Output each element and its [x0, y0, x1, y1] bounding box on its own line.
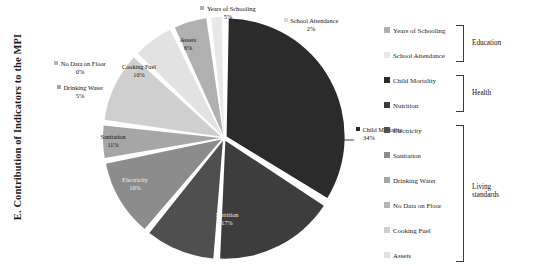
years-of-schooling-swatch-icon — [200, 6, 204, 10]
callout-drinking-water-value: 5% — [32, 92, 128, 100]
callout-no-data-on-floor: No Data on Floor 0% — [32, 60, 128, 76]
legend-swatch-icon — [384, 252, 390, 258]
legend-swatch-icon — [384, 52, 390, 58]
legend-group-label-line2: standards — [472, 191, 499, 200]
legend-item-label: Nutrition — [393, 102, 418, 109]
legend-swatch-icon — [384, 152, 390, 158]
legend-group-bracket — [456, 75, 464, 112]
callout-school-attendance-text: School Attendance — [290, 17, 338, 24]
slice-label-nutrition-text: Nutrition — [216, 211, 239, 218]
legend-group-bracket — [456, 125, 464, 262]
slice-label-electricity: Electricity 10% — [102, 176, 168, 191]
legend-item-label: Drinking Water — [393, 177, 436, 184]
legend: Years of SchoolingSchool AttendanceChild… — [384, 24, 537, 264]
legend-swatch-icon — [384, 102, 390, 108]
legend-group-bracket — [456, 25, 464, 62]
legend-group-label: Health — [472, 89, 491, 98]
callout-drinking-water-text: Drinking Water — [63, 84, 103, 91]
legend-item[interactable]: No Data on Floor — [384, 199, 441, 211]
callout-drinking-water: Drinking Water 5% — [32, 84, 128, 100]
pie-chart-figure: E. Contribution of Indicators to the MPI… — [0, 0, 537, 266]
legend-item[interactable]: School Attendance — [384, 49, 445, 61]
legend-swatch-icon — [384, 202, 390, 208]
legend-item-label: No Data on Floor — [393, 202, 441, 209]
callout-no-data-on-floor-text: No Data on Floor — [61, 60, 106, 67]
legend-item[interactable]: Nutrition — [384, 99, 418, 111]
legend-item[interactable]: Drinking Water — [384, 174, 436, 186]
legend-item-label: Cooking Fuel — [393, 227, 431, 234]
drinking-water-swatch-icon — [57, 85, 61, 89]
legend-swatch-icon — [384, 177, 390, 183]
legend-item[interactable]: Years of Schooling — [384, 24, 446, 36]
legend-item[interactable]: Assets — [384, 249, 411, 261]
slice-label-assets-value: 6% — [160, 44, 216, 52]
school-attendance-swatch-icon — [284, 18, 288, 22]
slice-label-electricity-value: 10% — [102, 184, 168, 192]
callout-school-attendance-value: 2% — [255, 25, 367, 33]
legend-swatch-icon — [384, 27, 390, 33]
legend-swatch-icon — [384, 227, 390, 233]
callout-years-of-schooling-text: Years of Schooling — [207, 5, 256, 12]
slice-label-assets: Assets 6% — [160, 36, 216, 51]
slice-label-sanitation: Sanitation 11% — [80, 133, 146, 148]
no-data-on-floor-swatch-icon — [54, 61, 58, 65]
child-mortality-swatch-icon — [356, 127, 360, 131]
legend-item[interactable]: Electricity — [384, 124, 422, 136]
legend-item[interactable]: Child Mortality — [384, 74, 436, 86]
legend-item[interactable]: Sanitation — [384, 149, 421, 161]
legend-group-label-line1: Living — [472, 183, 499, 192]
slice-label-electricity-text: Electricity — [122, 176, 148, 183]
legend-item[interactable]: Cooking Fuel — [384, 224, 431, 236]
legend-swatch-icon — [384, 77, 390, 83]
legend-item-label: Child Mortality — [393, 77, 436, 84]
callout-school-attendance: School Attendance 2% — [255, 17, 367, 33]
legend-item-label: Sanitation — [393, 152, 421, 159]
callout-no-data-on-floor-value: 0% — [32, 68, 128, 76]
slice-label-nutrition: Nutrition 17% — [190, 211, 264, 226]
legend-item-label: Assets — [393, 252, 411, 259]
slice-label-assets-text: Assets — [180, 36, 196, 43]
legend-group-label: Livingstandards — [472, 183, 499, 200]
axis-title: E. Contribution of Indicators to the MPI — [12, 2, 30, 252]
slice-label-nutrition-value: 17% — [190, 219, 264, 227]
pie-plot-area: Nutrition 17% Electricity 10% Sanitation… — [78, 14, 370, 262]
legend-swatch-icon — [384, 127, 390, 133]
slice-label-sanitation-text: Sanitation — [100, 133, 125, 140]
slice-label-sanitation-value: 11% — [80, 141, 146, 149]
legend-item-label: School Attendance — [393, 52, 445, 59]
legend-item-label: Electricity — [393, 127, 422, 134]
legend-item-label: Years of Schooling — [393, 27, 446, 34]
legend-group-label: Education — [472, 39, 501, 48]
